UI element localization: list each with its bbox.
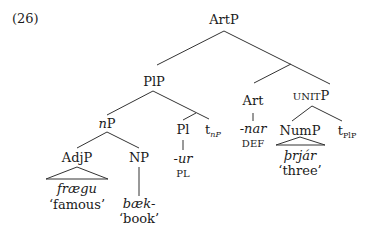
node-np-small: nP	[98, 117, 115, 131]
trace-plp: tPlP	[338, 124, 357, 143]
nump-gloss: ‘three’	[278, 164, 321, 178]
trace-np: tnP	[205, 123, 221, 142]
nump-word: þrjár	[284, 149, 317, 163]
node-artp: ArtP	[209, 13, 239, 27]
adjp-word: frægu	[57, 182, 97, 196]
node-art: Art	[243, 94, 264, 108]
node-adjp: AdjP	[62, 151, 93, 165]
adjp-gloss: ‘famous’	[49, 198, 105, 212]
node-unitp: UNITP	[293, 89, 330, 104]
np-word: bæk-	[123, 197, 156, 211]
node-pl: Pl	[177, 123, 190, 137]
node-nump: NumP	[280, 124, 321, 138]
np-gloss: ‘book’	[119, 212, 159, 226]
pl-word: -ur	[174, 152, 193, 166]
art-word: -nar	[240, 122, 267, 136]
node-plp: PlP	[143, 75, 165, 89]
art-gloss: DEF	[242, 137, 264, 151]
tree-branches	[0, 0, 373, 230]
node-np: NP	[129, 151, 149, 165]
pl-gloss: PL	[176, 167, 189, 181]
